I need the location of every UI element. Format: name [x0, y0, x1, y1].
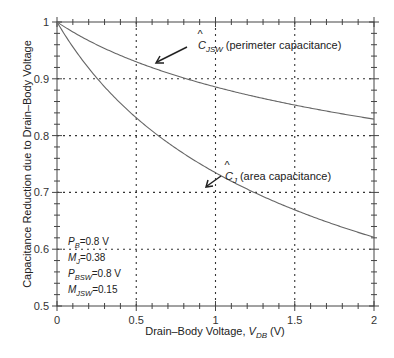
parameter-p-b: PB=0.8 V	[68, 236, 109, 250]
svg-text:1.5: 1.5	[287, 314, 302, 326]
svg-text:^: ^	[198, 28, 204, 40]
capacitance-chart: 00.511.52 0.50.60.70.80.91 CJSW(perimete…	[0, 0, 394, 358]
curves	[57, 22, 374, 237]
gridlines	[57, 22, 374, 306]
svg-text:2: 2	[371, 314, 377, 326]
tick-marks	[52, 17, 379, 311]
svg-text:^: ^	[225, 159, 231, 171]
curve-j	[57, 22, 374, 237]
y-axis-title: Capacitance Reduction due to Drain–Body …	[21, 40, 33, 288]
svg-text:CJ(area capacitance): CJ(area capacitance)	[225, 170, 331, 185]
x-axis-title: Drain–Body Voltage, VDB (V)	[145, 325, 285, 340]
svg-text:1: 1	[43, 16, 49, 28]
svg-text:0.5: 0.5	[129, 314, 144, 326]
svg-text:0.8: 0.8	[34, 130, 49, 142]
parameter-legend: PB=0.8 VMJ=0.38PBSW=0.8 VMJSW=0.15	[68, 236, 121, 298]
svg-text:CJSW(perimeter capacitance): CJSW(perimeter capacitance)	[198, 39, 341, 54]
svg-text:0.6: 0.6	[34, 243, 49, 255]
parameter-m-jsw: MJSW=0.15	[68, 284, 118, 298]
svg-text:0: 0	[54, 314, 60, 326]
y-tick-labels: 0.50.60.70.80.91	[34, 16, 49, 312]
parameter-m-j: MJ=0.38	[68, 252, 106, 266]
svg-text:0.7: 0.7	[34, 186, 49, 198]
svg-text:0.9: 0.9	[34, 73, 49, 85]
annotation-cjsw: CJSW(perimeter capacitance) ^	[156, 28, 341, 63]
svg-text:0.5: 0.5	[34, 300, 49, 312]
parameter-p-bsw: PBSW=0.8 V	[68, 268, 121, 282]
annotation-cj: CJ(area capacitance) ^	[206, 159, 331, 187]
